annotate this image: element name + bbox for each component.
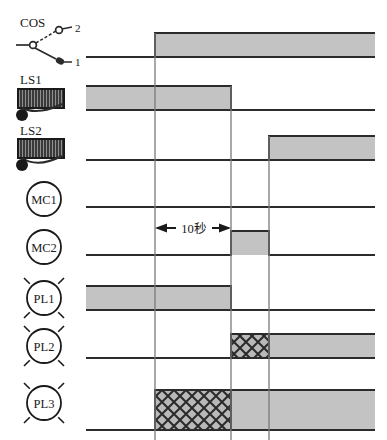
timing-chart-diagram: COS 2 1 LS1 LS2 MC1 MC2: [0, 0, 387, 440]
duration-label: 10秒: [181, 222, 207, 236]
ls2-label: LS2: [20, 123, 42, 138]
mc2-label: MC2: [31, 241, 57, 255]
ls1-label: LS1: [20, 72, 42, 87]
mc1-label: MC1: [31, 193, 57, 207]
cos-label: COS: [20, 15, 45, 30]
cos-contact-2-label: 2: [75, 22, 81, 34]
pl1-label: PL1: [34, 292, 55, 306]
pl2-label: PL2: [34, 340, 55, 354]
pl3-label: PL3: [34, 397, 55, 411]
cos-contact-1-label: 1: [75, 56, 81, 68]
